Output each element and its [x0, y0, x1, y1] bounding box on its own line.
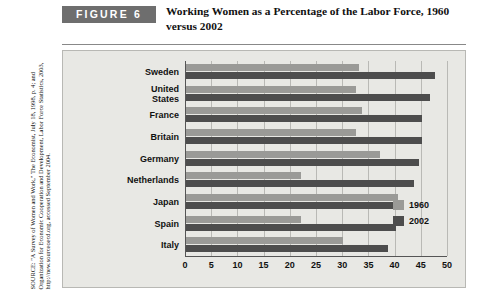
bar-1960	[186, 172, 301, 179]
bar-1960	[186, 129, 356, 136]
bar-1960	[186, 86, 356, 93]
bar-2002	[186, 202, 401, 209]
bar-1960	[186, 237, 343, 244]
category-label: Netherlands	[67, 175, 185, 185]
figure-title: Working Women as a Percentage of the Lab…	[166, 4, 466, 33]
legend-swatch-2002	[393, 216, 404, 226]
x-axis-line	[185, 256, 447, 257]
x-tick-label: 50	[435, 260, 459, 270]
bar-2002	[186, 72, 435, 79]
x-tick-label: 25	[304, 260, 328, 270]
bar-2002	[186, 94, 430, 101]
chart-panel: 05101520253035404550SwedenUnitedStatesFr…	[62, 50, 466, 288]
category-label: Germany	[67, 154, 185, 164]
bar-2002	[186, 180, 414, 187]
x-tick-label: 45	[409, 260, 433, 270]
x-tick-label: 30	[330, 260, 354, 270]
bar-2002	[186, 115, 422, 122]
figure-number-badge: FIGURE 6	[62, 6, 156, 23]
x-tick-label: 0	[173, 260, 197, 270]
bar-1960	[186, 107, 362, 114]
legend-item-2002: 2002	[393, 215, 455, 228]
legend-item-1960: 1960	[393, 199, 455, 212]
bar-1960	[186, 194, 398, 201]
figure-container: FIGURE 6 Working Women as a Percentage o…	[0, 0, 481, 293]
legend-swatch-1960	[393, 200, 404, 210]
category-label: Spain	[67, 219, 185, 229]
legend-label-2002: 2002	[409, 215, 429, 227]
category-label: France	[67, 110, 185, 120]
chart-legend: 1960 2002	[393, 199, 455, 231]
bar-1960	[186, 216, 301, 223]
category-label: Japan	[67, 197, 185, 207]
x-tick-label: 20	[278, 260, 302, 270]
bar-1960	[186, 64, 359, 71]
category-label: Britain	[67, 132, 185, 142]
figure-header: FIGURE 6 Working Women as a Percentage o…	[62, 4, 466, 44]
legend-label-1960: 1960	[409, 199, 429, 211]
source-note: SOURCE: "A Survey of Women and Work," Th…	[29, 53, 52, 289]
x-tick-label: 35	[356, 260, 380, 270]
bar-2002	[186, 159, 419, 166]
category-label: UnitedStates	[67, 84, 185, 104]
x-tick-label: 40	[383, 260, 407, 270]
x-tick-label: 5	[199, 260, 223, 270]
category-label: Italy	[67, 240, 185, 250]
x-tick-label: 10	[225, 260, 249, 270]
bar-2002	[186, 137, 422, 144]
x-tick-label: 15	[252, 260, 276, 270]
category-label: Sweden	[67, 67, 185, 77]
header-divider	[62, 44, 466, 45]
bar-2002	[186, 245, 388, 252]
bar-1960	[186, 151, 380, 158]
bar-2002	[186, 224, 396, 231]
